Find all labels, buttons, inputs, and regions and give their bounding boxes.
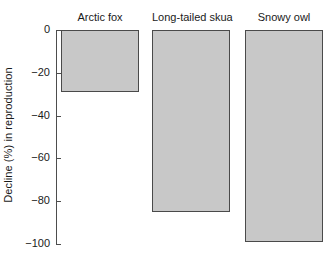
category-label-long-tailed-skua: Long-tailed skua bbox=[152, 11, 230, 23]
category-label-arctic-fox: Arctic fox bbox=[61, 11, 139, 23]
y-axis-title: Decline (%) in reproduction bbox=[0, 0, 16, 270]
y-tick-label: −60 bbox=[4, 152, 50, 163]
y-tick-label: −40 bbox=[4, 110, 50, 121]
bar-snowy-owl bbox=[245, 30, 323, 242]
bar-long-tailed-skua bbox=[152, 30, 230, 212]
plot-area bbox=[57, 30, 336, 244]
y-tick-mark bbox=[56, 244, 61, 245]
bar-arctic-fox bbox=[61, 30, 139, 92]
y-tick-label: −20 bbox=[4, 67, 50, 78]
y-tick-label: −100 bbox=[4, 238, 50, 249]
y-tick-label: 0 bbox=[4, 24, 50, 35]
bar-chart: Decline (%) in reproduction 0−20−40−60−8… bbox=[0, 0, 336, 270]
y-tick-label: −80 bbox=[4, 195, 50, 206]
category-label-snowy-owl: Snowy owl bbox=[245, 11, 323, 23]
